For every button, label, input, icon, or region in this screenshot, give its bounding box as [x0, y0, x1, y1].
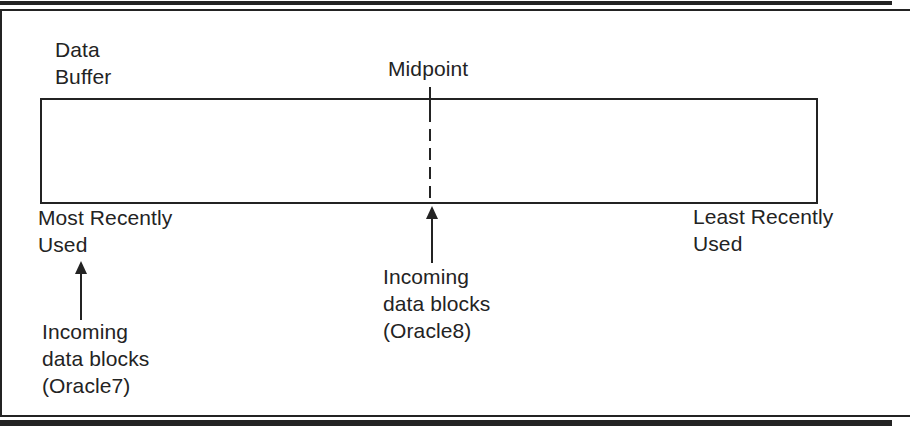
- oracle7-label-line2: data blocks: [42, 345, 149, 372]
- lru-label-line2: Used: [693, 230, 833, 257]
- midpoint-dashed-line: [429, 110, 431, 202]
- oracle8-label-line2: data blocks: [383, 290, 490, 317]
- oracle8-label-line3: (Oracle8): [383, 317, 490, 344]
- oracle8-incoming-arrow: [426, 206, 438, 263]
- arrow-shaft: [431, 219, 433, 263]
- data-buffer-label-line1: Data: [55, 36, 111, 63]
- arrow-shaft: [80, 274, 82, 320]
- mru-label-line2: Used: [38, 231, 172, 258]
- mru-label-line1: Most Recently: [38, 204, 172, 231]
- top-rule: [0, 1, 892, 5]
- arrow-up-icon: [75, 261, 87, 274]
- midpoint-label: Midpoint: [388, 55, 468, 82]
- incoming-oracle7-label: Incoming data blocks (Oracle7): [42, 318, 149, 399]
- midpoint-tick-line: [429, 87, 431, 110]
- most-recently-used-label: Most Recently Used: [38, 204, 172, 258]
- least-recently-used-label: Least Recently Used: [693, 203, 833, 257]
- oracle7-incoming-arrow: [75, 261, 87, 320]
- oracle8-label-line1: Incoming: [383, 263, 490, 290]
- incoming-oracle8-label: Incoming data blocks (Oracle8): [383, 263, 490, 344]
- oracle7-label-line1: Incoming: [42, 318, 149, 345]
- oracle7-label-line3: (Oracle7): [42, 372, 149, 399]
- data-buffer-label-line2: Buffer: [55, 63, 111, 90]
- arrow-up-icon: [426, 206, 438, 219]
- data-buffer-label: Data Buffer: [55, 36, 111, 90]
- lru-label-line1: Least Recently: [693, 203, 833, 230]
- bottom-rule: [0, 420, 892, 426]
